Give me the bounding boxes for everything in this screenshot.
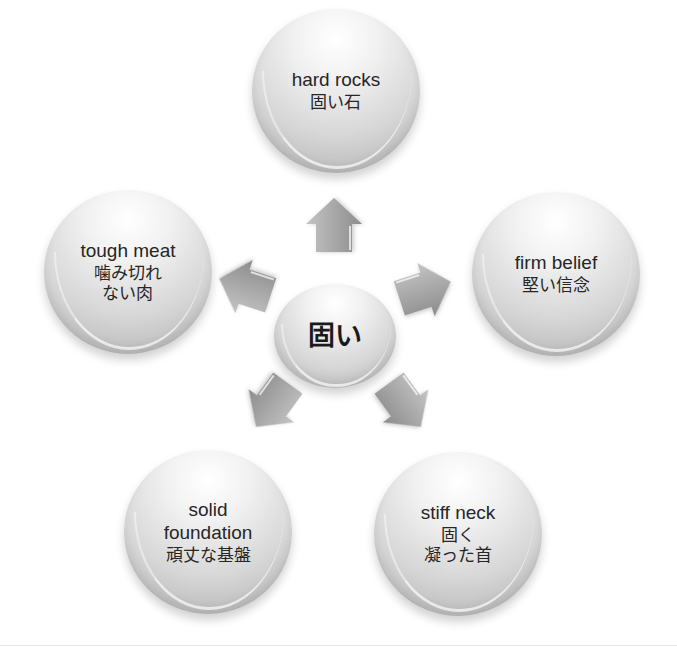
- node-label-jp: 頑丈な基盤: [164, 545, 253, 565]
- node-label-en: tough meat: [80, 240, 175, 263]
- arrow-upper-right-icon: [389, 254, 461, 325]
- node-firm-belief: firm belief 堅い信念: [472, 192, 640, 356]
- node-label-jp: 固い石: [292, 92, 381, 112]
- diagram-canvas: 固い hard rocks 固い石 firm belief 堅い信念 stiff…: [0, 0, 677, 652]
- arrow-lower-right-icon: [365, 365, 444, 445]
- center-node-label: 固い: [308, 320, 362, 352]
- node-label-en: hard rocks: [292, 69, 381, 92]
- node-solid-foundation: solid foundation 頑丈な基盤: [124, 450, 292, 614]
- node-label-jp: 固く: [421, 525, 496, 545]
- node-tough-meat: tough meat 噛み切れ ない肉: [44, 190, 212, 354]
- bottom-divider: [0, 645, 677, 646]
- node-label-jp-line2: 凝った首: [421, 545, 496, 565]
- node-stiff-neck: stiff neck 固く 凝った首: [374, 452, 542, 616]
- node-label-jp: 堅い信念: [515, 275, 597, 295]
- arrow-upper-left-icon: [209, 251, 281, 322]
- node-label-en: solid: [164, 499, 253, 522]
- node-label-en: stiff neck: [421, 502, 496, 525]
- center-node: 固い: [274, 284, 396, 388]
- node-label-en: firm belief: [515, 252, 597, 275]
- arrow-up-icon: [306, 196, 362, 254]
- node-label-jp: 噛み切れ: [80, 263, 175, 283]
- node-hard-rocks: hard rocks 固い石: [252, 9, 420, 173]
- node-label-jp-line2: ない肉: [80, 283, 175, 303]
- node-label-en-line2: foundation: [164, 522, 253, 545]
